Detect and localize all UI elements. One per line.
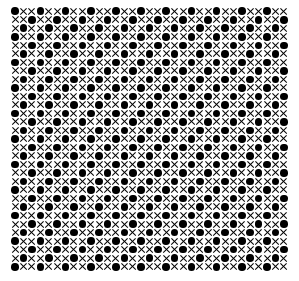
dot-icon: [162, 211, 170, 220]
cross-icon: [112, 254, 120, 263]
cross-icon: [19, 135, 27, 144]
cross-icon: [70, 135, 78, 144]
cross-icon: [187, 50, 195, 59]
dot-icon: [212, 84, 220, 93]
dot-icon: [19, 203, 27, 212]
cross-icon: [36, 169, 44, 178]
dot-icon: [120, 50, 128, 59]
cross-icon: [137, 245, 145, 254]
cross-icon: [280, 101, 288, 110]
cross-icon: [95, 84, 103, 93]
dot-icon: [129, 16, 137, 25]
dot-icon: [179, 220, 187, 229]
cross-icon: [221, 143, 229, 152]
dot-icon: [137, 58, 145, 67]
dot-icon: [78, 92, 86, 101]
cross-icon: [11, 169, 19, 178]
cross-icon: [280, 177, 288, 186]
cross-icon: [112, 75, 120, 84]
dot-icon: [112, 160, 120, 169]
dot-icon: [78, 245, 86, 254]
dot-icon: [221, 203, 229, 212]
cross-icon: [87, 16, 95, 25]
cross-icon: [221, 245, 229, 254]
cross-icon: [187, 152, 195, 161]
cross-icon: [221, 33, 229, 42]
dot-icon: [204, 41, 212, 50]
cross-icon: [154, 254, 162, 263]
cross-icon: [78, 7, 86, 16]
cross-icon: [36, 24, 44, 33]
dot-icon: [112, 7, 120, 16]
dot-icon: [120, 24, 128, 33]
cross-icon: [204, 84, 212, 93]
dot-icon: [221, 177, 229, 186]
cross-icon: [103, 84, 111, 93]
cross-icon: [154, 101, 162, 110]
cross-icon: [196, 220, 204, 229]
dot-icon: [45, 24, 53, 33]
cross-icon: [137, 67, 145, 76]
dot-icon: [246, 101, 254, 110]
cross-icon: [263, 169, 271, 178]
dot-icon: [212, 109, 220, 118]
cross-icon: [70, 160, 78, 169]
dot-icon: [212, 160, 220, 169]
cross-icon: [229, 160, 237, 169]
cross-icon: [70, 58, 78, 67]
cross-icon: [162, 24, 170, 33]
dot-icon: [87, 262, 95, 271]
dot-icon: [103, 16, 111, 25]
dot-icon: [271, 177, 279, 186]
cross-icon: [145, 67, 153, 76]
dot-icon: [162, 135, 170, 144]
dot-icon: [280, 92, 288, 101]
dot-icon: [129, 194, 137, 203]
cross-icon: [87, 24, 95, 33]
dot-icon: [11, 33, 19, 42]
dot-icon: [36, 262, 44, 271]
dot-icon: [11, 186, 19, 195]
cross-icon: [187, 203, 195, 212]
dot-icon: [162, 186, 170, 195]
cross-icon: [246, 143, 254, 152]
cross-icon: [129, 211, 137, 220]
cross-icon: [162, 67, 170, 76]
cross-icon: [70, 211, 78, 220]
cross-icon: [212, 92, 220, 101]
cross-icon: [28, 109, 36, 118]
cross-icon: [45, 118, 53, 127]
cross-icon: [19, 245, 27, 254]
cross-icon: [162, 228, 170, 237]
dot-icon: [112, 211, 120, 220]
cross-icon: [28, 177, 36, 186]
dot-icon: [28, 194, 36, 203]
cross-icon: [187, 126, 195, 135]
cross-icon: [229, 109, 237, 118]
cross-icon: [254, 50, 262, 59]
cross-icon: [246, 41, 254, 50]
dot-icon: [11, 160, 19, 169]
cross-icon: [129, 101, 137, 110]
dot-icon: [263, 58, 271, 67]
cross-icon: [112, 152, 120, 161]
dot-icon: [238, 211, 246, 220]
dot-icon: [263, 84, 271, 93]
cross-icon: [271, 58, 279, 67]
cross-icon: [36, 126, 44, 135]
dot-icon: [129, 92, 137, 101]
cross-icon: [45, 84, 53, 93]
dot-icon: [271, 75, 279, 84]
cross-icon: [187, 75, 195, 84]
cross-icon: [120, 169, 128, 178]
cross-icon: [271, 169, 279, 178]
cross-icon: [78, 203, 86, 212]
cross-icon: [154, 24, 162, 33]
cross-icon: [95, 33, 103, 42]
dot-icon: [28, 41, 36, 50]
cross-icon: [103, 152, 111, 161]
cross-icon: [137, 254, 145, 263]
cross-icon: [271, 67, 279, 76]
dot-icon: [45, 177, 53, 186]
dot-icon: [238, 186, 246, 195]
